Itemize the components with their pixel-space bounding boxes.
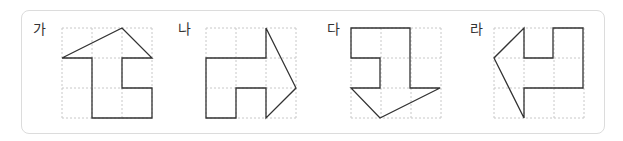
arrow-shape-2 (206, 28, 296, 118)
arrow-shape-3 (351, 28, 440, 118)
dotted-grids (62, 28, 584, 118)
arrow-shape-1 (62, 28, 152, 118)
figures-canvas (0, 0, 623, 141)
arrow-shape-4 (494, 28, 583, 118)
arrow-shapes (62, 28, 583, 118)
